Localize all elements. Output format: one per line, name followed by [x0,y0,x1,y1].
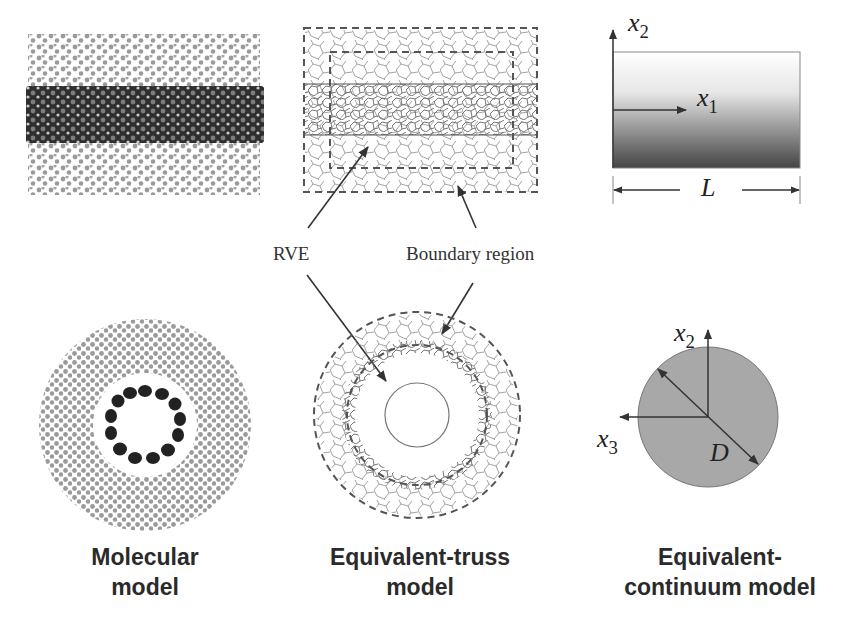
molecular-side-view [26,34,264,195]
x1-label: x1 [697,83,718,118]
caption-molecular: Molecular model [40,542,250,602]
boundary-region-label: Boundary region [406,243,534,265]
rve-label: RVE [273,243,309,265]
molecular-cross-section [39,319,251,531]
truss-cross-section [314,312,520,518]
truss-side-view [304,28,537,192]
x2-label-top: x2 [628,8,649,43]
length-label: L [701,173,715,203]
caption-truss: Equivalent-truss model [300,542,540,602]
x3-label: x3 [597,424,618,459]
caption-continuum: Equivalent- continuum model [600,542,840,602]
diameter-label: D [710,438,729,468]
figure-canvas [0,0,851,624]
x2-label-bottom: x2 [674,318,695,353]
continuum-cross-section [620,330,778,487]
